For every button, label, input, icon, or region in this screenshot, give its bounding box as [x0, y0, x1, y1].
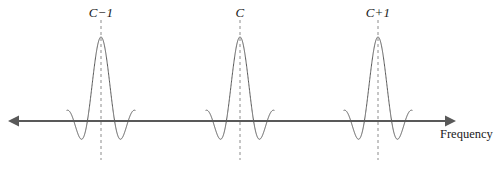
axis-arrow-left [8, 116, 19, 127]
channel-label-c-minus-1: C−1 [89, 5, 114, 21]
frequency-axis-label: Frequency [440, 127, 493, 142]
dashed-marker-group [101, 20, 378, 160]
axis-arrow-right [445, 116, 456, 127]
channel-label-c: C [236, 5, 245, 21]
sinc-spectrum-plot [0, 0, 500, 170]
spectrum-figure: C−1 C C+1 Frequency [0, 0, 500, 170]
channel-label-c-plus-1: C+1 [366, 5, 391, 21]
